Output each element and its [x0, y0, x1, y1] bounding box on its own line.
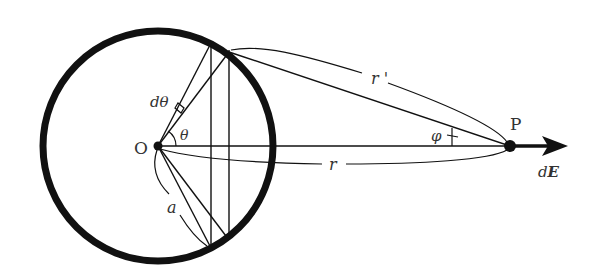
theta-arc — [168, 131, 176, 146]
label-phi: φ — [431, 127, 442, 145]
label-point-P: P — [510, 114, 521, 134]
a-dimension-bottom — [180, 215, 207, 246]
r-prime-dimension-left — [231, 48, 362, 73]
label-r: r — [329, 155, 338, 174]
label-dE: dE — [538, 163, 560, 181]
r-prime-dimension-right — [388, 83, 507, 142]
point-P — [504, 140, 516, 152]
label-dE-d: d — [538, 163, 548, 181]
r-dimension-left — [160, 149, 322, 164]
label-a: a — [167, 198, 177, 217]
origin-point — [154, 142, 163, 151]
r-dimension-right — [346, 150, 507, 164]
label-dtheta: dθ — [150, 93, 169, 111]
label-theta: θ — [180, 127, 189, 143]
radius-lower-1 — [158, 146, 211, 248]
diagram-canvas: O P dθ θ a r ' r φ dE — [0, 0, 601, 280]
label-r-prime: r ' — [371, 69, 388, 88]
label-origin: O — [134, 138, 148, 158]
label-dE-E: E — [547, 163, 560, 181]
